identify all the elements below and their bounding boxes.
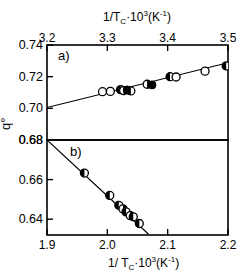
figure-container: q° 1/TC·103(K-1) 1/ TC·103(K-1) a) b) 3.… bbox=[0, 0, 246, 280]
data-point-half-left bbox=[129, 213, 137, 221]
panel-a-data bbox=[47, 62, 230, 108]
tick-label: 2.0 bbox=[99, 238, 116, 252]
tick-label: 3.3 bbox=[99, 31, 116, 45]
panel-b-label: b) bbox=[70, 145, 82, 158]
data-point-half-left bbox=[80, 169, 88, 177]
panel-b-data bbox=[47, 140, 148, 234]
tick-label: 0.66 bbox=[19, 173, 43, 187]
data-point-half-left bbox=[222, 62, 230, 70]
panel-a-ticks bbox=[47, 45, 228, 108]
tick-label: 0.70 bbox=[19, 101, 43, 115]
panel-a-label: a) bbox=[58, 49, 70, 62]
data-point-half-left bbox=[106, 191, 114, 199]
y-axis-label: q° bbox=[0, 118, 12, 130]
data-point-half-left bbox=[135, 220, 143, 228]
data-point-filled bbox=[148, 81, 156, 89]
data-point-half-left bbox=[127, 87, 135, 95]
data-point-open bbox=[106, 87, 114, 95]
top-axis-title-mid: ·10 bbox=[126, 10, 143, 24]
data-point-open bbox=[172, 73, 180, 81]
bottom-axis-title-unit-end: ) bbox=[175, 256, 179, 270]
bottom-axis-title: 1/ TC·103(K-1) bbox=[108, 256, 179, 272]
y-axis-label-text: q° bbox=[0, 118, 13, 130]
tick-label: 2.1 bbox=[159, 238, 176, 252]
top-axis-title-unit-end: ) bbox=[167, 10, 171, 24]
bottom-axis-title-unit: (K bbox=[156, 256, 168, 270]
data-point-open bbox=[201, 67, 209, 75]
tick-label: 0.74 bbox=[19, 38, 43, 52]
bottom-axis-title-mid: ·10 bbox=[134, 256, 151, 270]
bottom-axis-title-base: 1/ T bbox=[108, 256, 128, 270]
tick-label: 0.68 bbox=[19, 133, 43, 147]
top-axis-title-base: 1/T bbox=[103, 10, 120, 24]
panel-b-points bbox=[80, 169, 143, 227]
top-axis-title: 1/TC·103(K-1) bbox=[103, 10, 171, 26]
tick-label: 3.4 bbox=[159, 31, 176, 45]
top-axis-title-unit: (K bbox=[148, 10, 160, 24]
tick-label: 1.9 bbox=[39, 238, 56, 252]
tick-label: 0.72 bbox=[19, 70, 43, 84]
tick-label: 3.5 bbox=[220, 31, 237, 45]
panel-a-frame bbox=[47, 45, 228, 140]
tick-label: 2.2 bbox=[220, 238, 237, 252]
plot-svg: 3.23.33.43.50.680.700.720.741.92.02.12.2… bbox=[0, 0, 246, 280]
tick-label: 0.64 bbox=[19, 212, 43, 226]
top-axis-title-unit-sup: -1 bbox=[160, 9, 167, 18]
data-point-open bbox=[99, 88, 107, 96]
